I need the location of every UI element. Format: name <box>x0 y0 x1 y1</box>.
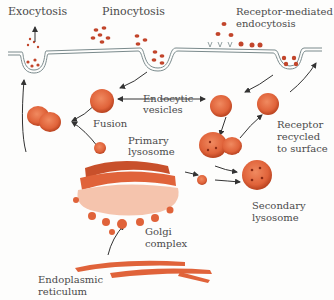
golgi-to-small-lysosome-arrow <box>185 172 198 175</box>
endocytosis-diagram: Exocytosis Pinocytosis Receptor-mediated… <box>0 0 334 300</box>
pinocytosis-to-vesicle-arrow <box>120 72 147 88</box>
small-lysosome-to-secondary-arrow <box>215 180 240 182</box>
label-receptor-recycled-3: to surface <box>277 143 328 154</box>
label-receptor-recycled-2: recycled <box>277 131 320 142</box>
label-exocytosis: Exocytosis <box>8 6 67 17</box>
label-secondary-1: Secondary <box>252 200 306 211</box>
recycle-up-arrow <box>240 115 262 138</box>
endocytic-vesicle-right <box>210 95 232 117</box>
label-receptor-recycled-1: Receptor <box>277 119 323 130</box>
primary-lysosome <box>94 142 106 154</box>
label-receptor-mediated-1: Receptor-mediated <box>236 6 333 17</box>
receptor-vesicle <box>257 93 279 115</box>
vesicle-down-arrow <box>220 117 226 135</box>
plasma-membrane <box>8 48 322 73</box>
label-endocytic-1: Endocytic <box>143 93 193 104</box>
secondary-lysosome <box>242 160 272 190</box>
small-lysosome <box>197 175 207 185</box>
endocytic-vesicle-left <box>90 89 114 113</box>
golgi-complex <box>73 161 179 235</box>
receptors <box>208 42 232 47</box>
exocytosis-particles <box>26 38 39 68</box>
label-receptor-mediated-2: endocytosis <box>236 18 296 29</box>
recycled-to-surface-arrow <box>290 63 316 92</box>
label-golgi-2: complex <box>145 238 187 249</box>
label-primary-1: Primary <box>128 135 169 146</box>
label-fusion: Fusion <box>93 118 127 129</box>
pinocytosis-particles <box>91 26 165 65</box>
label-primary-2: lysosome <box>128 146 175 157</box>
fusion-to-exocytosis-arrow <box>22 80 26 152</box>
fused-to-secondary-arrow <box>215 166 237 172</box>
receptor-to-vesicle-arrow <box>245 75 273 92</box>
label-golgi-1: Golgi <box>145 226 172 237</box>
label-pinocytosis: Pinocytosis <box>102 6 165 17</box>
fused-endosome <box>199 132 242 158</box>
vesicle-to-fusion-arrow <box>72 105 95 121</box>
label-er-2: reticulum <box>38 286 87 297</box>
label-endocytic-2: vesicles <box>143 104 183 115</box>
fusion-vesicle <box>27 106 61 132</box>
label-er-1: Endoplasmic <box>38 274 103 285</box>
label-secondary-2: lysosome <box>252 212 299 223</box>
